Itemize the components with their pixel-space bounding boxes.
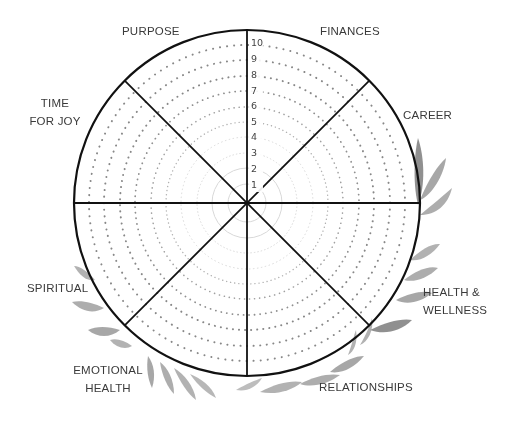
label-line: PURPOSE [122, 22, 180, 40]
label-line: HEALTH & [423, 283, 487, 301]
label-line: FINANCES [320, 22, 380, 40]
tick-4: 4 [251, 131, 257, 142]
label-time-for-joy: TIME FOR JOY [24, 94, 86, 130]
label-line: SPIRITUAL [27, 279, 88, 297]
label-spiritual: SPIRITUAL [27, 279, 88, 297]
tick-3: 3 [251, 147, 257, 158]
tick-8: 8 [251, 69, 257, 80]
label-line: TIME [24, 94, 86, 112]
tick-6: 6 [251, 100, 257, 111]
wheel-of-life-diagram: 1 2 3 4 5 6 7 8 9 10 [0, 0, 506, 422]
label-line: CAREER [403, 106, 452, 124]
tick-1: 1 [251, 179, 257, 190]
label-line: RELATIONSHIPS [319, 378, 413, 396]
label-health-wellness: HEALTH & WELLNESS [423, 283, 487, 319]
tick-5: 5 [251, 116, 257, 127]
label-relationships: RELATIONSHIPS [319, 378, 413, 396]
label-emotional-health: EMOTIONAL HEALTH [70, 361, 146, 397]
tick-7: 7 [251, 85, 257, 96]
label-line: EMOTIONAL [70, 361, 146, 379]
spokes [74, 30, 420, 376]
tick-10: 10 [251, 37, 263, 48]
tick-9: 9 [251, 53, 257, 64]
label-line: WELLNESS [423, 301, 487, 319]
label-career: CAREER [403, 106, 452, 124]
tick-2: 2 [251, 163, 257, 174]
scale-ticks: 1 2 3 4 5 6 7 8 9 10 [249, 32, 263, 192]
label-purpose: PURPOSE [122, 22, 180, 40]
label-line: HEALTH [70, 379, 146, 397]
label-line: FOR JOY [24, 112, 86, 130]
label-finances: FINANCES [320, 22, 380, 40]
